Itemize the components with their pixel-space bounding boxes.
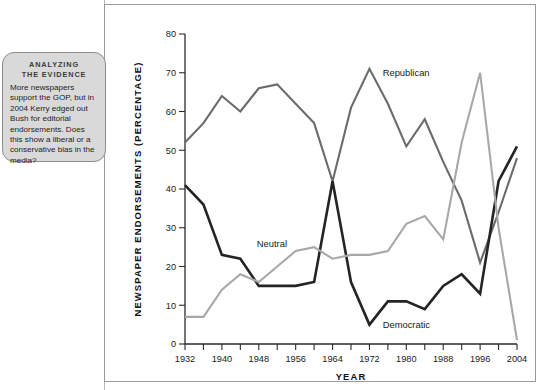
series-label-republican: Republican <box>383 67 430 78</box>
svg-text:20: 20 <box>166 262 176 272</box>
chart-frame: 0102030405060708019321940194819561964197… <box>104 4 536 382</box>
callout-heading-line1: ANALYZING <box>10 60 98 70</box>
chart-plot-area: 0102030405060708019321940194819561964197… <box>105 5 537 383</box>
svg-text:1980: 1980 <box>396 354 416 364</box>
y-axis-title: NEWSPAPER ENDORSEMENTS (PERCENTAGE) <box>132 61 143 316</box>
line-chart-svg: 0102030405060708019321940194819561964197… <box>105 5 537 383</box>
svg-text:80: 80 <box>166 29 176 39</box>
callout-body-text: More newspapers support the GOP, but in … <box>10 83 98 166</box>
series-label-democratic: Democratic <box>383 319 431 330</box>
svg-text:1972: 1972 <box>359 354 379 364</box>
analyzing-the-evidence-callout: ANALYZING THE EVIDENCE More newspapers s… <box>2 52 106 162</box>
callout-heading: ANALYZING THE EVIDENCE <box>10 60 98 80</box>
chart-series <box>185 69 517 340</box>
svg-text:1940: 1940 <box>212 354 232 364</box>
svg-text:50: 50 <box>166 146 176 156</box>
svg-text:70: 70 <box>166 68 176 78</box>
chart-axes: 0102030405060708019321940194819561964197… <box>166 29 527 364</box>
svg-text:30: 30 <box>166 223 176 233</box>
chart-series-labels: RepublicanDemocraticNeutral <box>257 67 431 330</box>
svg-text:1932: 1932 <box>175 354 195 364</box>
svg-text:40: 40 <box>166 184 176 194</box>
svg-text:1948: 1948 <box>249 354 269 364</box>
callout-heading-line2: THE EVIDENCE <box>10 70 98 80</box>
series-label-neutral: Neutral <box>257 238 287 249</box>
svg-text:1956: 1956 <box>285 354 305 364</box>
svg-text:60: 60 <box>166 107 176 117</box>
svg-text:10: 10 <box>166 301 176 311</box>
x-axis-title: YEAR <box>336 371 367 382</box>
svg-text:1988: 1988 <box>433 354 453 364</box>
svg-text:0: 0 <box>171 339 176 349</box>
svg-text:2004: 2004 <box>507 354 527 364</box>
svg-text:1964: 1964 <box>322 354 342 364</box>
svg-text:1996: 1996 <box>470 354 490 364</box>
